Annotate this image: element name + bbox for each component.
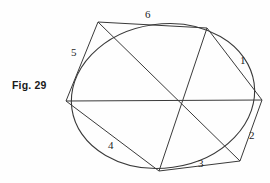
figure-caption: Fig. 29: [12, 79, 47, 91]
diagonal-2-5: [159, 28, 207, 171]
point-label-6: 6: [145, 9, 151, 20]
point-label-5: 5: [71, 47, 77, 58]
figure-container: Fig. 29 1 2 3 4 5 6: [0, 0, 270, 183]
figure-drawing: [0, 0, 270, 183]
point-label-2: 2: [249, 130, 255, 141]
point-label-1: 1: [240, 55, 246, 66]
point-label-3: 3: [198, 158, 204, 169]
point-label-4: 4: [108, 140, 114, 151]
diagonal-3-6: [66, 100, 262, 101]
